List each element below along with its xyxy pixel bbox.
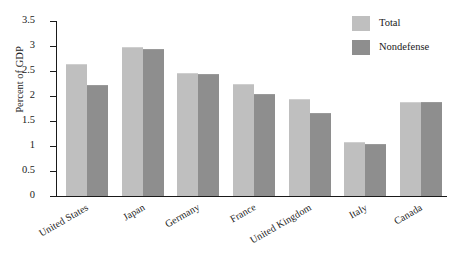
x-axis-label: Germany <box>163 201 201 229</box>
legend-item[interactable]: Nondefense <box>352 40 429 55</box>
bar-chart: 3.532.521.510.50 Percent of GDP United S… <box>0 0 469 272</box>
x-axis-label: France <box>228 201 258 224</box>
x-axis-label: United States <box>37 201 90 238</box>
legend-label-total: Total <box>379 18 400 29</box>
x-axis-label: United Kingdom <box>248 201 313 245</box>
legend-swatch-total-icon <box>352 16 370 31</box>
x-axis-label: Japan <box>121 201 147 222</box>
x-axis-label: Italy <box>347 201 369 220</box>
legend-label-nondefense: Nondefense <box>379 42 429 53</box>
legend-item[interactable]: Total <box>352 16 429 31</box>
legend: Total Nondefense <box>352 16 429 64</box>
x-axis-label: Canada <box>392 201 424 226</box>
legend-swatch-nondefense-icon <box>352 40 370 55</box>
